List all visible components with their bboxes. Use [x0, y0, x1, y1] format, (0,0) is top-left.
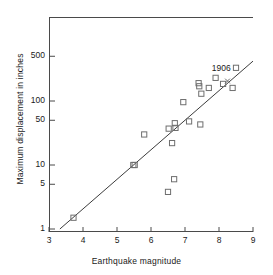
data-point-square: [172, 177, 177, 182]
data-point-square: [230, 85, 235, 90]
data-point-square: [213, 75, 218, 80]
x-tick-label: 4: [76, 236, 90, 245]
data-point-square: [198, 122, 203, 127]
y-tick-label: 1: [19, 224, 45, 233]
y-tick-label: 100: [19, 96, 45, 105]
data-point-square: [165, 189, 170, 194]
data-point-square: [199, 91, 204, 96]
x-tick-label: 7: [178, 236, 192, 245]
data-point-square: [186, 119, 191, 124]
data-point-square: [169, 140, 174, 145]
x-tick-label: 9: [246, 236, 260, 245]
chart-canvas: [0, 0, 273, 275]
data-point-square: [142, 132, 147, 137]
annotation-1906-label: 1906: [212, 63, 231, 73]
y-tick-label: 10: [19, 160, 45, 169]
data-point-square: [181, 100, 186, 105]
y-tick-label: 50: [19, 115, 45, 124]
x-tick-label: 5: [110, 236, 124, 245]
x-axis-title: Earthquake magnitude: [0, 256, 273, 266]
data-point-square: [206, 85, 211, 90]
x-tick-label: 3: [42, 236, 56, 245]
data-point-square: [233, 65, 238, 70]
x-tick-label: 6: [144, 236, 158, 245]
y-tick-label: 5: [19, 179, 45, 188]
data-point-square: [166, 126, 171, 131]
x-tick-label: 8: [212, 236, 226, 245]
y-tick-label: 500: [19, 51, 45, 60]
earthquake-displacement-chart: Earthquake magnitude Maximum displacemen…: [0, 0, 273, 275]
